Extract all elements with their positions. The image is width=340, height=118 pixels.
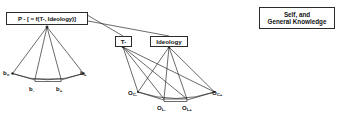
indicator-label-b-inner-right: b+ (56, 86, 62, 92)
left-baseline (13, 74, 84, 82)
left-fan-edges (13, 27, 84, 79)
predictor-box: P - [ = f(T-, Ideology)] (6, 12, 88, 25)
self-knowledge-line1: Self, and (284, 11, 310, 18)
ideology-box: Ideology (150, 36, 188, 47)
predictor-to-mediators-edges (88, 16, 169, 37)
indicator-label-o-l-minus: OL- (157, 105, 166, 111)
t-minus-box: T- (115, 36, 132, 47)
self-knowledge-line2: General Knowledge (268, 18, 327, 25)
indicator-label-b-inner-left: b- (29, 86, 34, 92)
indicator-label-o-c-minus: OC- (128, 90, 137, 96)
indicator-label-o-l-plus: OL+ (182, 105, 192, 111)
right-baseline (138, 92, 215, 102)
indicator-label-b-outer-right: b+ (80, 70, 86, 76)
path-diagram: P - [ = f(T-, Ideology)] T- Ideology Sel… (0, 0, 340, 118)
indicator-label-o-c-plus: OC+ (212, 90, 222, 96)
indicator-label-b-outer-left: b= (3, 70, 9, 76)
self-knowledge-box: Self, and General Knowledge (259, 7, 335, 29)
